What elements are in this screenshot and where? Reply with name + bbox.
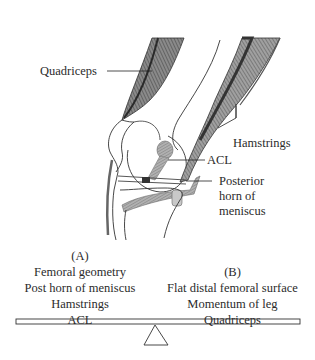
side-a-heading: (A) xyxy=(10,248,150,264)
quadriceps-muscle xyxy=(122,38,184,120)
side-b-item: Momentum of leg xyxy=(160,296,305,312)
balance-side-a: (A) Femoral geometry Post horn of menisc… xyxy=(10,248,150,328)
hamstrings-label: Hamstrings xyxy=(233,136,291,150)
acl-ligament xyxy=(148,141,173,180)
acl-label: ACL xyxy=(207,153,232,167)
side-a-item: ACL xyxy=(10,312,150,328)
side-b-item: Flat distal femoral surface xyxy=(160,280,305,296)
side-b-item: Quadriceps xyxy=(160,312,305,328)
quadriceps-label: Quadriceps xyxy=(40,64,97,78)
side-a-item: Post horn of meniscus xyxy=(10,280,150,296)
posterior-horn-label: Posterior horn of meniscus xyxy=(219,174,266,219)
side-b-heading: (B) xyxy=(160,264,305,280)
side-a-item: Femoral geometry xyxy=(10,264,150,280)
side-a-item: Hamstrings xyxy=(10,296,150,312)
balance-side-b: (B) Flat distal femoral surface Momentum… xyxy=(160,264,305,328)
fulcrum-triangle xyxy=(144,325,168,345)
